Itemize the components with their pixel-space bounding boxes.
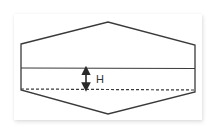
tank-diagram: H bbox=[0, 0, 214, 128]
diagram-stage: H bbox=[0, 0, 214, 128]
height-label: H bbox=[96, 73, 104, 85]
dashed-level-line bbox=[21, 89, 195, 90]
solid-level-line bbox=[21, 68, 195, 69]
